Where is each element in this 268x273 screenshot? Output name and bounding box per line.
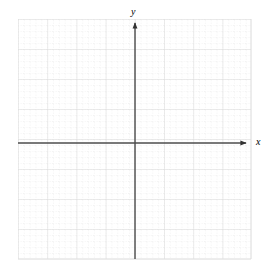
graph-canvas: [0, 0, 268, 273]
y-axis-label: y: [131, 7, 135, 17]
coordinate-grid-figure: y x: [0, 0, 268, 273]
x-axis-label: x: [256, 137, 260, 147]
